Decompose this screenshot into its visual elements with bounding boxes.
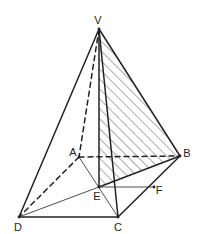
- edge-vd: [19, 29, 99, 217]
- vertex-c: [117, 216, 120, 219]
- label-d: D: [14, 221, 22, 233]
- vertex-e: [98, 186, 101, 189]
- pyramid-figure: VABCDEF: [0, 0, 197, 234]
- edge-ad: [19, 157, 79, 217]
- label-c: C: [114, 221, 122, 233]
- shaded-section-vEB: [99, 29, 180, 187]
- label-v: V: [94, 14, 102, 26]
- edge-va: [79, 29, 99, 157]
- hatched-triangle-veb: [99, 29, 180, 187]
- label-a: A: [69, 146, 77, 158]
- vertex-d: [18, 216, 21, 219]
- pyramid-diagram: VABCDEF: [0, 0, 197, 234]
- vertex-b: [179, 155, 182, 158]
- label-e: E: [93, 190, 100, 202]
- vertex-v: [98, 28, 101, 31]
- label-b: B: [183, 147, 190, 159]
- vertex-a: [78, 156, 81, 159]
- edge-ab: [79, 156, 180, 157]
- edge-ed: [19, 187, 99, 217]
- label-f: F: [156, 184, 163, 196]
